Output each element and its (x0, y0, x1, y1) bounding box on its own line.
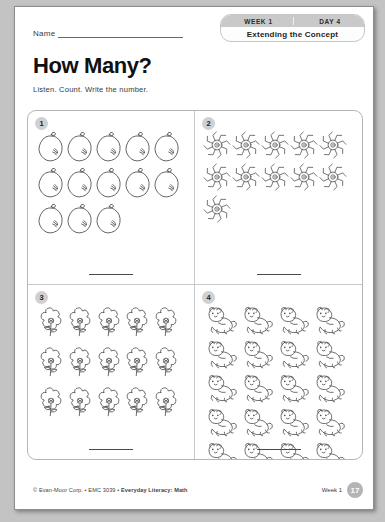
answer-line-4[interactable] (257, 449, 301, 450)
flower-icon (36, 385, 65, 425)
page-number-badge: 17 (347, 482, 363, 498)
lemon-fruit-icon (122, 131, 151, 167)
name-label: Name (33, 29, 56, 38)
flower-icon (94, 385, 123, 425)
bear-icon (311, 373, 347, 407)
lemon-fruit-icon (65, 167, 94, 203)
exercise-grid: 1 (27, 110, 363, 460)
copyright-title: Everyday Literacy: Math (121, 487, 188, 493)
lemon-fruit-icon (151, 167, 180, 203)
lemon-fruit-icon (65, 131, 94, 167)
flower-icon (36, 345, 65, 385)
flower-icon (151, 345, 180, 385)
bear-icon (239, 441, 275, 459)
spider-icon (232, 131, 261, 163)
lemon-fruit-icon (151, 131, 180, 167)
exercise-box-3: 3 (28, 285, 195, 459)
spider-icon (289, 131, 318, 163)
footer-week-label: Week 1 (322, 487, 342, 493)
lemon-fruit-icon (94, 167, 123, 203)
exercise-number-badge: 1 (35, 117, 48, 130)
bear-icon (203, 305, 239, 339)
answer-line-1[interactable] (89, 274, 133, 275)
flower-icon (122, 385, 151, 425)
worksheet-header: Name WEEK 1 DAY 4 Extending the Concept (15, 7, 373, 49)
exercise-items-4 (195, 305, 362, 459)
bear-icon (239, 339, 275, 373)
copyright-prefix: © Evan-Moor Corp. • EMC 3039 • (33, 487, 121, 493)
badge-week-label: WEEK 1 (244, 18, 273, 25)
answer-line-3[interactable] (89, 449, 133, 450)
flower-icon (151, 385, 180, 425)
exercise-number-badge: 4 (202, 291, 215, 304)
lemon-fruit-icon (94, 203, 123, 239)
spider-icon (261, 131, 290, 163)
bear-icon (239, 407, 275, 441)
flower-icon (122, 345, 151, 385)
name-field[interactable]: Name (33, 29, 183, 38)
exercise-items-3 (28, 305, 194, 425)
worksheet-page: Name WEEK 1 DAY 4 Extending the Concept … (14, 6, 374, 510)
spider-icon (203, 163, 232, 195)
instructions-text: Listen. Count. Write the number. (33, 85, 373, 94)
bear-icon (203, 407, 239, 441)
bear-icon (311, 441, 347, 459)
badge-week-day-bar: WEEK 1 DAY 4 (221, 15, 364, 27)
badge-day-label: DAY 4 (319, 18, 340, 25)
bear-icon (203, 441, 239, 459)
bear-icon (239, 373, 275, 407)
flower-icon (151, 305, 180, 345)
bear-icon (275, 339, 311, 373)
page-title: How Many? (33, 53, 373, 79)
lemon-fruit-icon (36, 203, 65, 239)
bear-icon (275, 305, 311, 339)
exercise-box-1: 1 (28, 111, 195, 285)
spider-icon (289, 163, 318, 195)
answer-line-2[interactable] (257, 274, 301, 275)
spider-icon (318, 163, 347, 195)
exercise-box-4: 4 (195, 285, 362, 459)
spider-icon (318, 131, 347, 163)
bear-icon (239, 305, 275, 339)
footer-right-group: Week 1 17 (322, 482, 363, 498)
flower-icon (122, 305, 151, 345)
flower-icon (94, 345, 123, 385)
exercise-number-badge: 3 (35, 291, 48, 304)
flower-icon (94, 305, 123, 345)
lemon-fruit-icon (94, 131, 123, 167)
spider-icon (203, 195, 232, 227)
exercise-items-2 (195, 131, 362, 227)
exercise-items-1 (28, 131, 194, 240)
flower-icon (65, 345, 94, 385)
spider-icon (232, 163, 261, 195)
lemon-fruit-icon (36, 131, 65, 167)
bear-icon (275, 373, 311, 407)
flower-icon (65, 305, 94, 345)
screenshot-viewport: Name WEEK 1 DAY 4 Extending the Concept … (0, 0, 385, 522)
copyright-text: © Evan-Moor Corp. • EMC 3039 • Everyday … (33, 487, 188, 493)
lesson-badge: WEEK 1 DAY 4 Extending the Concept (220, 14, 365, 42)
bear-icon (275, 407, 311, 441)
badge-separator-icon (293, 17, 294, 25)
badge-lesson-label: Extending the Concept (221, 27, 364, 41)
lemon-fruit-icon (122, 167, 151, 203)
spider-icon (261, 163, 290, 195)
lemon-fruit-icon (65, 203, 94, 239)
exercise-box-2: 2 (195, 111, 362, 285)
exercise-number-badge: 2 (202, 117, 215, 130)
bear-icon (311, 407, 347, 441)
flower-icon (65, 385, 94, 425)
spider-icon (203, 131, 232, 163)
worksheet-footer: © Evan-Moor Corp. • EMC 3039 • Everyday … (15, 481, 373, 499)
bear-icon (311, 305, 347, 339)
flower-icon (36, 305, 65, 345)
bear-icon (203, 339, 239, 373)
lemon-fruit-icon (36, 167, 65, 203)
bear-icon (275, 441, 311, 459)
bear-icon (203, 373, 239, 407)
name-input-line[interactable] (58, 29, 183, 38)
bear-icon (311, 339, 347, 373)
